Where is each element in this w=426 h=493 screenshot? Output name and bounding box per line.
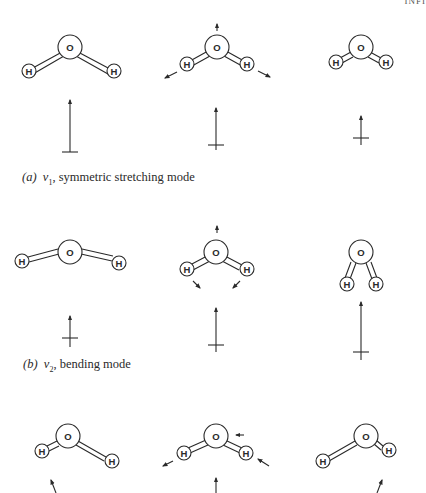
svg-text:O: O: [213, 42, 220, 53]
svg-text:H: H: [109, 456, 116, 467]
svg-text:H: H: [383, 57, 390, 68]
caption-a: (a) ν1, symmetric stretching mode: [22, 170, 195, 187]
oxygen-label: O: [66, 42, 73, 53]
svg-text:H: H: [386, 445, 393, 456]
svg-text:H: H: [184, 264, 191, 275]
svg-text:O: O: [362, 431, 369, 442]
svg-text:O: O: [212, 247, 219, 258]
svg-text:O: O: [357, 42, 364, 53]
svg-text:H: H: [116, 258, 123, 269]
svg-text:H: H: [333, 57, 340, 68]
svg-text:H: H: [184, 59, 191, 70]
svg-text:H: H: [111, 66, 118, 77]
svg-text:H: H: [39, 446, 46, 457]
running-header-fragment: INFI: [405, 0, 426, 6]
svg-text:H: H: [19, 256, 26, 267]
svg-text:O: O: [64, 431, 71, 442]
svg-text:H: H: [320, 456, 327, 467]
svg-text:O: O: [212, 431, 219, 442]
svg-text:O: O: [66, 247, 73, 258]
molecule-c3: [316, 424, 396, 468]
svg-text:H: H: [244, 59, 251, 70]
svg-text:H: H: [181, 448, 188, 459]
molecule-c1: [35, 424, 119, 468]
svg-text:H: H: [26, 66, 33, 77]
svg-text:H: H: [244, 264, 251, 275]
svg-text:H: H: [373, 279, 380, 290]
svg-text:H: H: [344, 279, 351, 290]
svg-text:O: O: [357, 247, 364, 258]
svg-text:H: H: [243, 448, 250, 459]
caption-b: (b) ν2, bending mode: [23, 357, 131, 374]
